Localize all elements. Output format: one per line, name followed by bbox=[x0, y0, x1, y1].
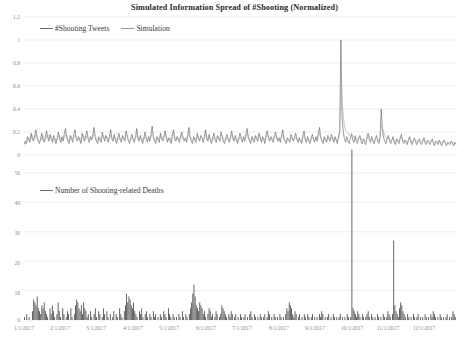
bar bbox=[283, 317, 284, 320]
bar bbox=[75, 305, 76, 320]
bar bbox=[158, 317, 159, 320]
bar bbox=[180, 317, 181, 320]
bar bbox=[87, 317, 88, 320]
bar bbox=[267, 317, 268, 320]
bar bbox=[426, 317, 427, 320]
bar bbox=[372, 317, 373, 320]
bar bbox=[249, 314, 250, 320]
bar bbox=[41, 305, 42, 320]
bar bbox=[336, 317, 337, 320]
bar bbox=[139, 311, 140, 320]
bar bbox=[133, 302, 134, 320]
bar bbox=[381, 317, 382, 320]
bar bbox=[446, 317, 447, 320]
bar bbox=[392, 314, 393, 320]
bar bbox=[210, 311, 211, 320]
bar bbox=[293, 317, 294, 320]
bar bbox=[40, 314, 41, 320]
bar bbox=[342, 317, 343, 320]
bar bbox=[397, 314, 398, 320]
bar bbox=[369, 317, 370, 320]
bar bbox=[268, 311, 269, 320]
bar bbox=[350, 317, 351, 320]
bar bbox=[126, 294, 127, 320]
bar bbox=[221, 305, 222, 320]
bar bbox=[141, 308, 142, 320]
bar bbox=[195, 296, 196, 320]
bar bbox=[389, 314, 390, 320]
bar bbox=[455, 317, 456, 320]
bar bbox=[217, 314, 218, 320]
bar bbox=[82, 314, 83, 320]
bar bbox=[212, 314, 213, 320]
bar bbox=[39, 311, 40, 320]
bar bbox=[260, 314, 261, 320]
bar bbox=[333, 314, 334, 320]
bar bbox=[295, 311, 296, 320]
bar bbox=[231, 311, 232, 320]
bar bbox=[185, 314, 186, 320]
bar bbox=[255, 317, 256, 320]
bar bbox=[124, 311, 125, 320]
bar bbox=[86, 311, 87, 320]
bar bbox=[173, 314, 174, 320]
bar bbox=[53, 311, 54, 320]
bar bbox=[137, 317, 138, 320]
bottom-panel-plot bbox=[0, 0, 469, 343]
bar bbox=[411, 317, 412, 320]
bar bbox=[252, 317, 253, 320]
bar bbox=[153, 311, 154, 320]
bar bbox=[113, 311, 114, 320]
bar bbox=[422, 317, 423, 320]
bar bbox=[312, 314, 313, 320]
bar bbox=[263, 317, 264, 320]
bar bbox=[399, 308, 400, 320]
bar bbox=[205, 317, 206, 320]
bar bbox=[322, 314, 323, 320]
bar bbox=[232, 314, 233, 320]
bar bbox=[84, 308, 85, 320]
bar bbox=[66, 317, 67, 320]
bar bbox=[307, 314, 308, 320]
bar bbox=[357, 311, 358, 320]
bar bbox=[299, 314, 300, 320]
bar bbox=[190, 308, 191, 320]
bar bbox=[317, 317, 318, 320]
bar bbox=[88, 314, 89, 320]
bar bbox=[285, 314, 286, 320]
bar bbox=[216, 311, 217, 320]
bar bbox=[163, 311, 164, 320]
bar bbox=[328, 314, 329, 320]
bar bbox=[196, 305, 197, 320]
bar bbox=[437, 317, 438, 320]
bar bbox=[63, 314, 64, 320]
bar bbox=[207, 314, 208, 320]
bar bbox=[351, 149, 352, 320]
bar bbox=[384, 317, 385, 320]
bar bbox=[355, 314, 356, 320]
bar bbox=[321, 311, 322, 320]
bar bbox=[356, 317, 357, 320]
bar bbox=[160, 314, 161, 320]
bar bbox=[110, 314, 111, 320]
bar bbox=[170, 317, 171, 320]
bar bbox=[43, 308, 44, 320]
bar bbox=[135, 314, 136, 320]
bar bbox=[79, 308, 80, 320]
bar bbox=[178, 314, 179, 320]
bar bbox=[99, 314, 100, 320]
bar bbox=[74, 314, 75, 320]
bar bbox=[59, 311, 60, 320]
bar bbox=[371, 314, 372, 320]
bar bbox=[154, 317, 155, 320]
bar bbox=[327, 317, 328, 320]
bar bbox=[375, 317, 376, 320]
bar bbox=[320, 317, 321, 320]
bar bbox=[275, 317, 276, 320]
bar bbox=[168, 308, 169, 320]
bar bbox=[311, 317, 312, 320]
bar bbox=[240, 314, 241, 320]
bar bbox=[169, 314, 170, 320]
bar bbox=[288, 311, 289, 320]
bar bbox=[45, 311, 46, 320]
